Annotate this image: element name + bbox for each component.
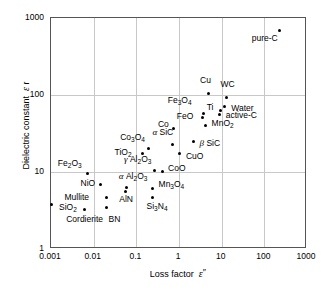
data-point (86, 172, 89, 175)
x-tick-label: 10 (216, 251, 225, 261)
data-point-label: AlN (119, 195, 133, 204)
data-point-label: CuO (186, 152, 203, 161)
data-point-label: Water (231, 104, 253, 113)
data-point (161, 170, 164, 173)
x-tick-label: 1000 (297, 251, 316, 261)
data-point (83, 208, 86, 211)
data-point (278, 29, 281, 32)
data-point (192, 140, 195, 143)
data-point (99, 183, 102, 186)
data-point (202, 112, 205, 115)
data-point-label: γ Al2O3 (124, 155, 151, 164)
data-point-label: FeO (177, 112, 194, 121)
data-point (105, 196, 108, 199)
data-point-label: Fe2O3 (58, 159, 82, 168)
data-point-label: Ti (207, 103, 214, 112)
gridline-vertical (264, 18, 265, 247)
data-point (153, 169, 156, 172)
plot-area: SiO2CordieriteMulliteBNFe2O3NiOAlNα Al2O… (50, 17, 306, 248)
data-point (204, 124, 207, 127)
data-point-label: Co3O4 (120, 133, 145, 142)
data-point (171, 143, 174, 146)
y-tick-label: 1 (10, 243, 44, 253)
scatter-chart: SiO2CordieriteMulliteBNFe2O3NiOAlNα Al2O… (0, 0, 321, 296)
data-point-label: Si3N4 (147, 202, 168, 211)
data-point-label: α Al2O3 (119, 172, 148, 181)
data-point (172, 127, 175, 130)
data-point (124, 190, 127, 193)
x-tick-label: 100 (256, 251, 270, 261)
x-tick-label: 1 (176, 251, 181, 261)
gridline-vertical (179, 18, 180, 247)
data-point (105, 206, 108, 209)
data-point (151, 187, 154, 190)
y-tick-label: 1000 (10, 12, 44, 22)
data-point (147, 147, 150, 150)
data-point-label: CoO (168, 164, 185, 173)
x-tick-label: 0.01 (84, 251, 101, 261)
y-tick-label: 10 (10, 166, 44, 176)
data-point-label: β SiC (200, 139, 221, 148)
data-point-label: WC (221, 80, 235, 89)
data-point (151, 196, 154, 199)
y-axis-title: Dielectric constant ε r (20, 41, 31, 211)
data-point-label: Mullite (65, 193, 90, 202)
data-point (225, 96, 228, 99)
gridline-vertical (94, 18, 95, 247)
data-point-label: Cu (200, 76, 211, 85)
data-point (201, 116, 204, 119)
data-point-label: pure-C (252, 34, 278, 43)
gridline-vertical (222, 18, 223, 247)
data-point-label: MnO2 (212, 119, 234, 128)
data-point-label: SiO2 (59, 203, 77, 212)
data-point-label: Co (158, 120, 169, 129)
data-point-label: Mn3O4 (159, 180, 185, 189)
data-point-label: Cordierite (66, 215, 103, 224)
data-point (50, 203, 53, 206)
data-point (178, 152, 181, 155)
data-point (207, 92, 210, 95)
data-point-label: Fe3O4 (168, 96, 192, 105)
y-tick-label: 100 (10, 89, 44, 99)
x-axis-title: Loss factor ε″ (50, 268, 306, 279)
x-tick-label: 0.1 (129, 251, 141, 261)
data-point (223, 105, 226, 108)
data-point-label: BN (109, 215, 121, 224)
data-point-label: NiO (81, 179, 96, 188)
